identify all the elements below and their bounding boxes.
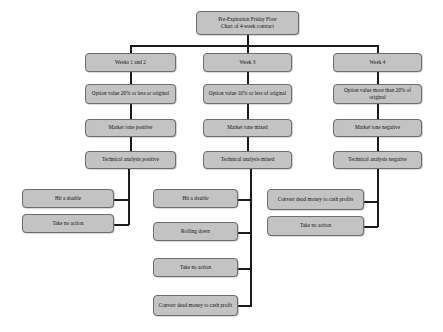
node-market-tone-week-4: Market tone negative xyxy=(333,119,422,137)
node-action-week-4-0: Convert dead money to cash profits xyxy=(267,189,364,210)
node-header-weeks-1-2: Weeks 1 and 2 xyxy=(85,53,176,72)
action-label: Take no action xyxy=(300,222,331,229)
market-tone-label: Market tone positive xyxy=(109,124,153,131)
header-label: Week 4 xyxy=(370,59,386,66)
flowchart-canvas: Pre-Expiration Friday Flow Chart of 4-we… xyxy=(0,0,443,332)
node-technical-analysis-weeks-1-2: Technical analysis positive xyxy=(85,151,176,169)
node-technical-analysis-week-3: Technical analysis mixed xyxy=(203,151,292,169)
node-option-value-weeks-1-2: Option value 20% or less or original xyxy=(85,84,176,104)
node-action-week-3-0: Hit a double xyxy=(153,189,238,208)
action-label: Take no action xyxy=(52,220,83,227)
edge-col2-tone-to-technical xyxy=(247,137,249,151)
node-action-weeks-1-2-0: Hit a double xyxy=(22,189,114,208)
edge-col1-option-to-tone xyxy=(130,104,132,119)
technical-analysis-label: Technical analysis positive xyxy=(102,156,159,163)
action-label: Hit a double xyxy=(182,195,208,202)
market-tone-label: Market tone negative xyxy=(355,124,400,131)
edge-col3-option-to-tone xyxy=(377,104,379,119)
option-value-label: Option value 20% or less or original xyxy=(92,90,169,97)
edge-col2-to-action-2 xyxy=(237,268,252,270)
edge-col1-tone-to-technical xyxy=(130,137,132,151)
action-label: Take no action xyxy=(180,264,211,271)
edge-col1-spine xyxy=(128,169,130,225)
edge-col2-to-action-3 xyxy=(237,305,252,307)
edge-col3-header-to-option xyxy=(377,72,379,84)
option-value-label: Option value more than 20% of original xyxy=(336,87,419,101)
node-market-tone-weeks-1-2: Market tone positive xyxy=(85,119,176,137)
node-header-week-3: Week 3 xyxy=(203,53,292,72)
node-action-weeks-1-2-1: Take no action xyxy=(22,214,114,233)
node-title: Pre-Expiration Friday Flow Chart of 4-we… xyxy=(196,11,299,35)
node-action-week-3-3: Convert dead money to cash profit xyxy=(153,295,238,316)
edge-col2-to-action-0 xyxy=(237,199,252,201)
action-label: Hit a double xyxy=(55,195,81,202)
edge-col3-spine xyxy=(377,169,379,227)
edge-col2-spine xyxy=(250,169,252,306)
node-header-week-4: Week 4 xyxy=(333,53,422,72)
edge-col3-to-action-1 xyxy=(363,226,378,228)
market-tone-label: Market tone mixed xyxy=(227,124,267,131)
technical-analysis-label: Technical analysis mixed xyxy=(221,156,275,163)
node-market-tone-week-3: Market tone mixed xyxy=(203,119,292,137)
action-label: Convert dead money to cash profits xyxy=(278,196,354,203)
action-label: Rolling down xyxy=(181,228,210,235)
node-technical-analysis-week-4: Technical analysis negative xyxy=(333,151,422,169)
edge-col1-to-action-1 xyxy=(113,224,129,226)
header-label: Week 3 xyxy=(240,59,256,66)
node-option-value-week-4: Option value more than 20% of original xyxy=(333,84,422,104)
header-label: Weeks 1 and 2 xyxy=(115,59,146,66)
edge-col2-option-to-tone xyxy=(247,104,249,119)
edge-col1-header-to-option xyxy=(130,72,132,84)
node-action-week-3-2: Take no action xyxy=(153,258,238,277)
node-option-value-week-3: Option value 10% or less of original xyxy=(203,84,292,104)
title-line-1: Pre-Expiration Friday Flow xyxy=(218,16,277,23)
node-action-week-4-1: Take no action xyxy=(267,216,364,236)
node-action-week-3-1: Rolling down xyxy=(153,222,238,241)
edge-col2-to-action-1 xyxy=(237,232,252,234)
option-value-label: Option value 10% or less of original xyxy=(209,90,286,97)
edge-col2-header-to-option xyxy=(247,72,249,84)
edge-root-bus xyxy=(130,45,378,47)
title-line-2: Chart of 4-week contract xyxy=(221,23,274,30)
edge-col1-to-action-0 xyxy=(113,199,129,201)
edge-col3-to-action-0 xyxy=(363,201,378,203)
edge-col3-tone-to-technical xyxy=(377,137,379,151)
action-label: Convert dead money to cash profit xyxy=(159,302,233,309)
technical-analysis-label: Technical analysis negative xyxy=(348,156,406,163)
